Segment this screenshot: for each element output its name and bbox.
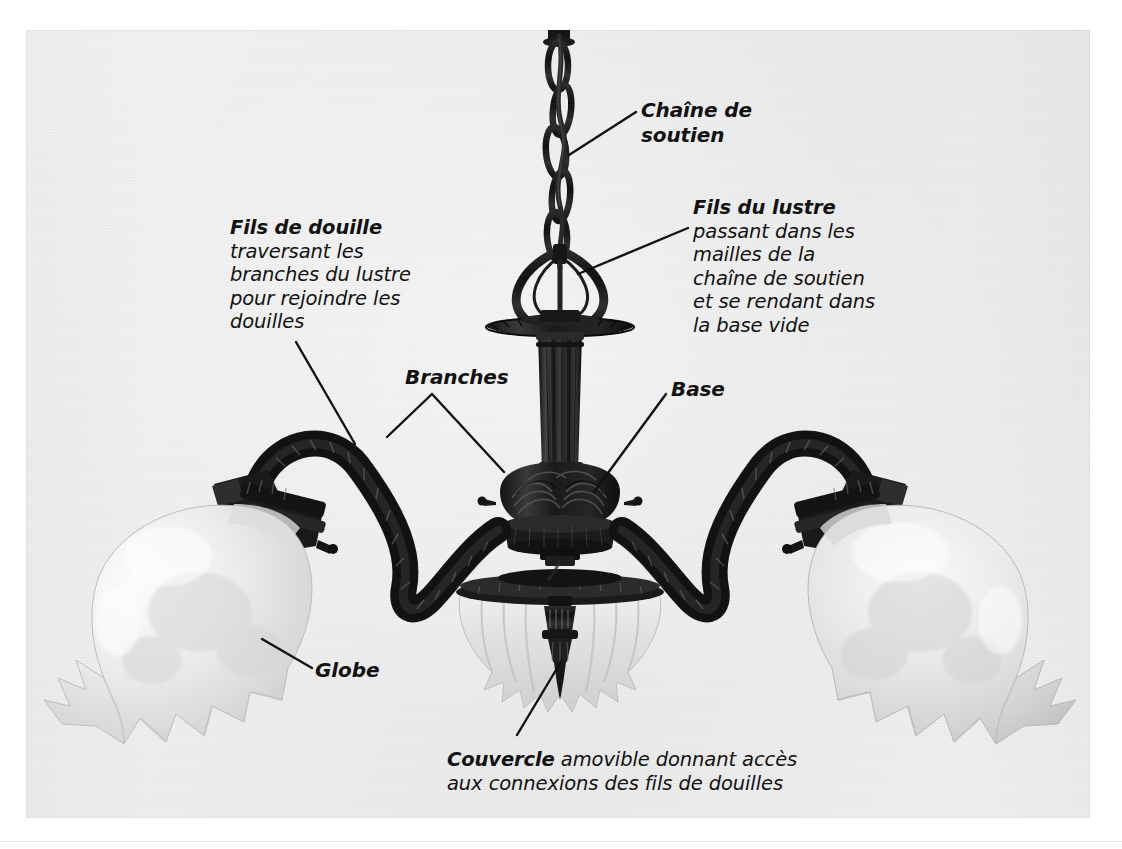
globe-right — [808, 504, 1076, 744]
leader-chaine — [569, 112, 636, 155]
globe-left — [44, 504, 312, 744]
bottom-hairline — [0, 841, 1122, 842]
figure-page: Chaîne de soutien Fils du lustrepassant … — [0, 0, 1122, 849]
chain-of-support — [543, 30, 575, 268]
leader-fils-douille — [296, 342, 355, 444]
base-body — [478, 462, 643, 566]
label-globe: Globe — [315, 659, 379, 683]
label-couvercle: Couvercle amovible donnant accès aux con… — [447, 748, 797, 795]
label-fils-de-douille: Fils de douilletraversant les branches d… — [230, 216, 411, 334]
label-chaine-de-soutien: Chaîne de soutien — [641, 98, 752, 148]
label-fils-du-lustre-body: passant dans les mailles de la chaîne de… — [693, 220, 875, 337]
leader-branches-right — [432, 394, 504, 472]
label-fils-de-douille-heading: Fils de douille — [230, 216, 382, 239]
leader-fils-lustre — [578, 228, 688, 274]
chandelier-illustration — [0, 0, 1122, 849]
label-fils-du-lustre-heading: Fils du lustre — [693, 196, 836, 219]
leader-branches-left — [387, 394, 432, 437]
label-couvercle-heading: Couvercle — [447, 748, 555, 771]
label-base: Base — [671, 378, 725, 402]
label-fils-du-lustre: Fils du lustrepassant dans les mailles d… — [693, 196, 875, 337]
label-fils-de-douille-body: traversant les branches du lustre pour r… — [230, 240, 411, 334]
fluted-column — [536, 332, 585, 477]
leader-base — [594, 394, 666, 492]
label-branches: Branches — [405, 366, 509, 390]
